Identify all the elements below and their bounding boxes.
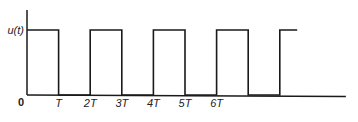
y-axis-label: u(t)	[8, 24, 25, 36]
origin-label: 0	[18, 96, 24, 108]
pulse-train-chart: u(t) 0 T2T3T4T5T6T	[0, 0, 358, 122]
x-tick-label: 4T	[147, 97, 161, 109]
x-tick-labels: T2T3T4T5T6T	[55, 97, 224, 109]
x-tick-label: T	[55, 97, 63, 109]
pulse-waveform-line	[27, 30, 297, 95]
x-tick-label: 3T	[115, 97, 129, 109]
x-tick-label: 6T	[210, 97, 224, 109]
x-tick-label: 2T	[83, 97, 98, 109]
x-tick-label: 5T	[179, 97, 193, 109]
